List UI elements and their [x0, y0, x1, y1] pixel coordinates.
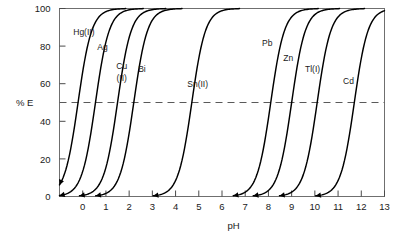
x-tick-label-5: 5: [196, 201, 201, 212]
x-tick-label-13: 13: [379, 201, 390, 212]
curve-label-tli: Tl(I): [305, 64, 320, 74]
curve-label-ag: Ag: [97, 42, 108, 52]
x-tick-label-7: 7: [243, 201, 248, 212]
curve-label-cd: Cd: [343, 76, 354, 86]
curve-base-arrowheads: [59, 179, 321, 198]
x-tick-label-11: 11: [333, 201, 343, 212]
y-tick-label-20: 20: [40, 154, 51, 165]
x-tick-label-6: 6: [219, 201, 224, 212]
curve-labels: Hg(II)AgCu(II)BiSn(II)PbZnTl(I)Cd: [73, 27, 354, 90]
y-tick-label-100: 100: [35, 3, 51, 14]
extraction-curve-figure: 020406080100 012345678910111213 Hg(II)Ag…: [0, 0, 408, 235]
curve-label-zn: Zn: [283, 53, 293, 63]
x-tick-label-0: 0: [80, 201, 85, 212]
chart-canvas: 020406080100 012345678910111213 Hg(II)Ag…: [0, 0, 408, 235]
y-tick-label-40: 40: [40, 116, 51, 127]
x-tick-label-12: 12: [356, 201, 367, 212]
x-tick-label-10: 10: [310, 201, 321, 212]
curve-label-pb: Pb: [262, 38, 273, 48]
curve-label-snii: Sn(II): [187, 79, 208, 89]
x-axis-title: pH: [228, 220, 240, 231]
curve-label-cuii: Cu: [116, 61, 127, 71]
curve-label-cuii-line2: (II): [117, 73, 128, 83]
x-tick-label-2: 2: [126, 201, 131, 212]
y-tick-label-60: 60: [40, 78, 51, 89]
curve-label-hgii: Hg(II): [73, 27, 94, 37]
curve-label-bi: Bi: [138, 64, 146, 74]
curve-cd: [316, 11, 385, 196]
x-tick-label-8: 8: [266, 201, 271, 212]
y-tick-label-80: 80: [40, 41, 51, 52]
x-tick-label-3: 3: [150, 201, 155, 212]
x-tick-label-4: 4: [173, 201, 178, 212]
x-tick-label-1: 1: [103, 201, 108, 212]
x-axis-ticks: 012345678910111213: [80, 191, 390, 212]
x-tick-label-9: 9: [289, 201, 294, 212]
y-axis-title: % E: [16, 97, 33, 108]
y-tick-label-0: 0: [45, 191, 50, 202]
